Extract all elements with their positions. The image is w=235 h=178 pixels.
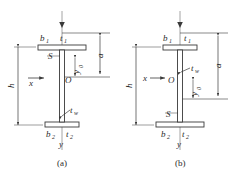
panel-b-caption: (b) bbox=[175, 158, 186, 168]
panel-b-label-x-axis: x bbox=[142, 73, 147, 83]
panel-a-label-tw: t bbox=[70, 105, 73, 115]
panel-b-label-a: a bbox=[213, 63, 223, 68]
panel-b-label-y0: y bbox=[189, 92, 199, 97]
panel-b-label-t1: t bbox=[184, 33, 187, 43]
panel-a-label-y-axis: y bbox=[58, 139, 63, 149]
panel-b-y-axis-arrowhead bbox=[177, 22, 183, 28]
panel-b-label-shear-center: S bbox=[166, 109, 171, 119]
panel-a-top-flange bbox=[38, 45, 86, 50]
panel-b-label-centroid: O bbox=[168, 75, 175, 85]
panel-b-label-b2: b bbox=[161, 129, 166, 139]
panel-a-caption: (a) bbox=[57, 158, 67, 168]
panel-a-label-y0: y bbox=[71, 70, 81, 75]
panel-a-label-x-axis: x bbox=[28, 78, 33, 88]
panel-a-label-centroid: O bbox=[65, 75, 72, 85]
panel-b-label-t1-sub: 1 bbox=[188, 38, 191, 44]
panel-a-bottom-flange bbox=[45, 122, 79, 127]
panel-b-label-y0-sub: 0 bbox=[196, 87, 202, 90]
panel-b-label-b1-sub: 1 bbox=[169, 38, 172, 44]
panel-b-label-b2-sub: 2 bbox=[167, 134, 170, 140]
panel-a-label-t1-sub: 1 bbox=[64, 38, 67, 44]
panel-a-label-t2-sub: 2 bbox=[70, 134, 73, 140]
panel-b-label-t2-sub: 2 bbox=[186, 134, 189, 140]
panel-a-label-b2-sub: 2 bbox=[52, 134, 55, 140]
panel-b-label-tw-sub: w bbox=[195, 68, 199, 74]
panel-b-top-flange bbox=[163, 45, 197, 50]
panel-b-web bbox=[178, 50, 183, 122]
panel-b-label-t2: t bbox=[182, 129, 185, 139]
panel-b-bottom-flange bbox=[156, 122, 204, 127]
panel-b-label-b1: b bbox=[163, 33, 168, 43]
panel-b-label-h: h bbox=[124, 83, 134, 88]
panel-b-label-tw: t bbox=[191, 63, 194, 73]
panel-a-label-y0-sub: 0 bbox=[78, 65, 84, 68]
panel-a-label-t2: t bbox=[66, 129, 69, 139]
panel-a-label-b2: b bbox=[46, 129, 51, 139]
panel-b-label-y-axis: y bbox=[176, 139, 181, 149]
panel-b: a h b 1 t 1 b 2 t 2 t w O S x y 0 y bbox=[124, 11, 228, 150]
panel-a-label-a: a bbox=[95, 53, 105, 58]
panel-a-web bbox=[60, 50, 65, 122]
panel-a: a h b 1 t 1 b 2 t 2 t w S O x y 0 y bbox=[6, 11, 110, 150]
panel-a-y-axis-arrowhead bbox=[59, 22, 65, 28]
panel-a-label-h: h bbox=[6, 83, 16, 88]
panel-a-label-b1-sub: 1 bbox=[46, 38, 49, 44]
panel-a-label-tw-sub: w bbox=[74, 110, 78, 116]
panel-a-label-t1: t bbox=[60, 33, 63, 43]
panel-a-label-b1: b bbox=[40, 33, 45, 43]
figure-canvas: a h b 1 t 1 b 2 t 2 t w S O x y 0 y bbox=[0, 0, 235, 178]
